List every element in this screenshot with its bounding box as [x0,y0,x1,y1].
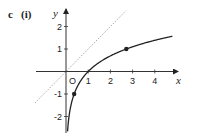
data-point [72,92,76,96]
plot-area: 1234-2-112Oxy [35,7,181,133]
data-point [124,47,128,51]
chart: c (i) 1234-2-112Oxy [0,0,197,134]
x-tick-label: 2 [108,76,113,86]
sub-label: (i) [21,8,32,21]
part-label: c [8,8,13,20]
x-axis-label: x [175,74,181,86]
y-tick-label: 2 [57,22,62,32]
y-axis-label: y [52,7,58,19]
x-tick-label: 3 [130,76,135,86]
x-tick-label: 1 [86,76,91,86]
y-tick-label: -2 [54,112,62,122]
line-y-equals-x [35,11,126,103]
x-tick-label: 4 [152,76,157,86]
origin-label: O [69,76,76,86]
y-tick-label: 1 [57,44,62,54]
y-tick-label: -1 [54,89,62,99]
